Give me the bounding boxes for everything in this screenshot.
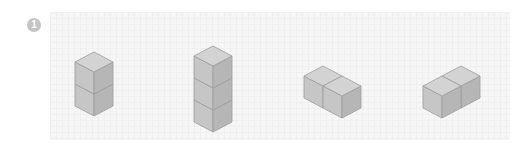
figure-3-horizontal-right-down	[304, 66, 361, 118]
figure-1-two-stack	[75, 52, 113, 116]
figure-4-horizontal-right-up	[423, 66, 480, 118]
cube-figures: .t { fill: #d3d3d3; stroke: #9c9c9c; str…	[0, 0, 520, 151]
figure-2-three-stack	[194, 46, 232, 132]
